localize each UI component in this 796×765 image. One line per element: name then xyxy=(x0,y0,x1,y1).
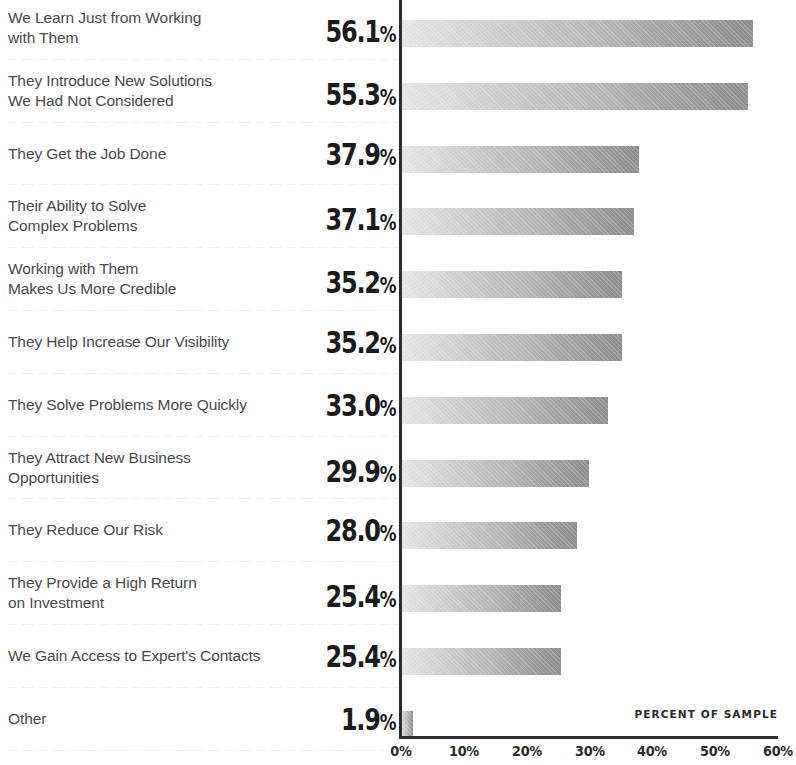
row-separator xyxy=(8,498,398,499)
category-label: Other xyxy=(8,709,298,729)
x-tick-label: 10% xyxy=(436,742,491,760)
value-label: 25.4% xyxy=(279,582,396,615)
bar-texture xyxy=(401,585,561,612)
row-separator xyxy=(8,750,398,751)
bar-texture xyxy=(401,208,634,235)
bar xyxy=(401,648,561,675)
bar xyxy=(401,522,577,549)
value-label: 28.0% xyxy=(279,516,396,549)
bar-texture xyxy=(401,711,413,738)
value-label: 33.0% xyxy=(279,391,396,424)
value-number: 35.2 xyxy=(326,325,380,360)
value-label: 35.2% xyxy=(279,328,396,361)
percent-sign: % xyxy=(380,463,396,487)
bar-texture xyxy=(401,271,622,298)
bar xyxy=(401,334,622,361)
chart-row: Their Ability to Solve Complex Problems3… xyxy=(0,188,796,251)
value-label: 29.9% xyxy=(279,457,396,490)
value-label: 55.3% xyxy=(279,80,396,113)
category-label: Working with Them Makes Us More Credible xyxy=(8,259,298,299)
x-axis-line xyxy=(399,736,778,739)
chart-row: They Get the Job Done37.9% xyxy=(0,126,796,189)
value-number: 1.9 xyxy=(341,702,380,737)
value-number: 33.0 xyxy=(326,388,380,423)
category-label: They Get the Job Done xyxy=(8,144,298,164)
bar xyxy=(401,711,413,738)
chart-row: They Provide a High Return on Investment… xyxy=(0,565,796,628)
bar-texture xyxy=(401,648,561,675)
value-number: 29.9 xyxy=(326,454,380,489)
percent-sign: % xyxy=(380,397,396,421)
bar xyxy=(401,20,753,47)
value-label: 37.9% xyxy=(279,140,396,173)
chart-row: Working with Them Makes Us More Credible… xyxy=(0,251,796,314)
bar-texture xyxy=(401,334,622,361)
value-number: 25.4 xyxy=(326,639,380,674)
row-separator xyxy=(8,687,398,688)
row-separator xyxy=(8,184,398,185)
percent-sign: % xyxy=(380,274,396,298)
percent-sign: % xyxy=(380,522,396,546)
value-number: 37.9 xyxy=(326,137,380,172)
value-label: 1.9% xyxy=(279,705,396,738)
category-label: We Learn Just from Working with Them xyxy=(8,8,298,48)
percent-sign: % xyxy=(380,648,396,672)
x-tick-label: 20% xyxy=(499,742,554,760)
x-tick-label: 50% xyxy=(688,742,743,760)
bar xyxy=(401,146,639,173)
x-tick-label: 60% xyxy=(750,742,796,760)
row-separator xyxy=(8,247,398,248)
value-label: 37.1% xyxy=(279,205,396,238)
bar xyxy=(401,460,589,487)
chart-row: They Reduce Our Risk28.0% xyxy=(0,502,796,565)
value-number: 25.4 xyxy=(326,579,380,614)
percent-sign: % xyxy=(380,211,396,235)
value-label: 35.2% xyxy=(279,268,396,301)
chart-row: They Solve Problems More Quickly33.0% xyxy=(0,377,796,440)
category-label: They Introduce New Solutions We Had Not … xyxy=(8,71,298,111)
bar xyxy=(401,397,608,424)
y-axis-line xyxy=(399,0,402,738)
percent-sign: % xyxy=(380,23,396,47)
bar xyxy=(401,83,748,110)
row-separator xyxy=(8,59,398,60)
bar-texture xyxy=(401,83,748,110)
category-label: They Solve Problems More Quickly xyxy=(8,395,298,415)
row-separator xyxy=(8,436,398,437)
row-separator xyxy=(8,122,398,123)
chart-row: They Attract New Business Opportunities2… xyxy=(0,440,796,503)
category-label: They Provide a High Return on Investment xyxy=(8,573,298,613)
bar-texture xyxy=(401,146,639,173)
percent-sign: % xyxy=(380,86,396,110)
category-label: We Gain Access to Expert's Contacts xyxy=(8,646,298,666)
x-axis-caption: PERCENT OF SAMPLE xyxy=(634,708,778,720)
chart-row: They Help Increase Our Visibility35.2% xyxy=(0,314,796,377)
bar-texture xyxy=(401,397,608,424)
category-label: They Help Increase Our Visibility xyxy=(8,332,298,352)
value-number: 28.0 xyxy=(326,513,380,548)
category-label: Their Ability to Solve Complex Problems xyxy=(8,196,298,236)
category-label: They Reduce Our Risk xyxy=(8,520,298,540)
value-number: 37.1 xyxy=(326,202,380,237)
bar-texture xyxy=(401,522,577,549)
percent-sign: % xyxy=(380,711,396,735)
row-separator xyxy=(8,624,398,625)
bar-chart: We Learn Just from Working with Them56.1… xyxy=(0,0,796,765)
row-separator xyxy=(8,373,398,374)
category-label: They Attract New Business Opportunities xyxy=(8,448,298,488)
bar xyxy=(401,585,561,612)
x-tick-label: 30% xyxy=(562,742,617,760)
percent-sign: % xyxy=(380,588,396,612)
chart-row: We Gain Access to Expert's Contacts25.4% xyxy=(0,628,796,691)
x-tick-label: 40% xyxy=(625,742,680,760)
bar-texture xyxy=(401,20,753,47)
x-tick-label: 0% xyxy=(373,742,428,760)
value-number: 56.1 xyxy=(326,14,380,49)
percent-sign: % xyxy=(380,334,396,358)
value-number: 55.3 xyxy=(326,77,380,112)
row-separator xyxy=(8,561,398,562)
value-label: 25.4% xyxy=(279,642,396,675)
bar-texture xyxy=(401,460,589,487)
bar xyxy=(401,271,622,298)
bar xyxy=(401,208,634,235)
